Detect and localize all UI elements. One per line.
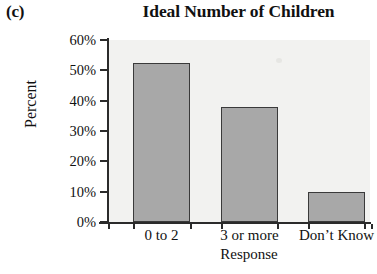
y-tick-label: 40% bbox=[50, 93, 96, 108]
bar bbox=[308, 192, 365, 222]
y-tick-label: 20% bbox=[50, 154, 96, 169]
y-tick-mark bbox=[100, 160, 108, 162]
bar bbox=[221, 107, 278, 222]
y-tick-label: 50% bbox=[50, 63, 96, 78]
x-category-label: Don’t Know bbox=[277, 228, 377, 244]
y-tick-label: 30% bbox=[50, 124, 96, 139]
scan-speckle bbox=[276, 58, 282, 63]
y-tick-mark bbox=[100, 130, 108, 132]
y-tick-mark bbox=[100, 191, 108, 193]
figure-panel: (c) Ideal Number of Children Percent 0%1… bbox=[0, 0, 377, 274]
y-tick-mark bbox=[100, 221, 108, 223]
y-tick-label: 60% bbox=[50, 33, 96, 48]
panel-label: (c) bbox=[6, 3, 24, 20]
bar bbox=[133, 63, 190, 222]
chart-title: Ideal Number of Children bbox=[100, 2, 377, 21]
y-tick-label: 10% bbox=[50, 184, 96, 199]
y-tick-mark bbox=[100, 100, 108, 102]
y-tick-mark bbox=[100, 39, 108, 41]
y-tick-label: 0% bbox=[50, 215, 96, 230]
y-tick-mark bbox=[100, 69, 108, 71]
x-axis-line bbox=[99, 222, 371, 224]
y-axis-title: Percent bbox=[23, 59, 39, 149]
x-axis-title: Response bbox=[189, 247, 309, 262]
